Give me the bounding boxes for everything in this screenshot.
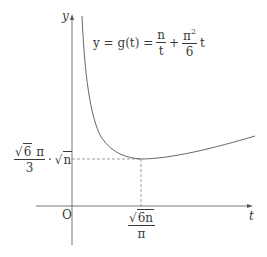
formula-term2-num: π <box>183 29 191 43</box>
formula-term2-den: 6 <box>186 44 194 58</box>
formula-term1: n t <box>156 29 166 57</box>
y-axis-arrow-icon <box>70 14 74 20</box>
origin-label: O <box>62 209 72 221</box>
min-x-frac: √6n π <box>128 212 155 240</box>
formula-term2-exp: 2 <box>191 27 196 36</box>
min-y-coef-sqrt: 6 <box>23 143 33 159</box>
min-x-label: √6n π <box>128 212 155 240</box>
min-y-coef: √6 π 3 <box>14 146 45 174</box>
min-y-dot: · <box>48 154 52 166</box>
y-axis-label: y <box>62 10 69 22</box>
min-y-sqrt-wrap: √n <box>55 154 72 166</box>
x-axis-label: t <box>249 210 254 222</box>
formula-term1-num: n <box>156 29 166 43</box>
min-x-den: π <box>138 226 146 240</box>
formula-term2: π2 6 <box>182 28 197 58</box>
min-y-coef-den: 3 <box>26 160 34 174</box>
x-axis-arrow-icon <box>247 204 253 208</box>
formula-term2-num-wrap: π2 <box>182 28 197 44</box>
min-y-coef-num: √6 π <box>14 146 45 160</box>
min-x-num: √6n <box>128 212 155 226</box>
formula-term1-den: t <box>159 43 164 57</box>
min-x-sqrt: 6n <box>137 209 154 225</box>
min-y-label: √6 π 3 · √n <box>14 146 72 174</box>
formula-plus: + <box>169 37 179 49</box>
min-y-coef-pi: π <box>36 145 44 159</box>
formula-lhs: y = g(t) = <box>93 37 153 49</box>
min-y-sqrt: n <box>63 151 73 167</box>
formula-label: y = g(t) = n t + π2 6 t <box>93 28 205 58</box>
formula-term2-var: t <box>200 37 205 49</box>
function-graph: y t O y = g(t) = n t + π2 6 t √6 π 3 · √… <box>0 0 267 257</box>
